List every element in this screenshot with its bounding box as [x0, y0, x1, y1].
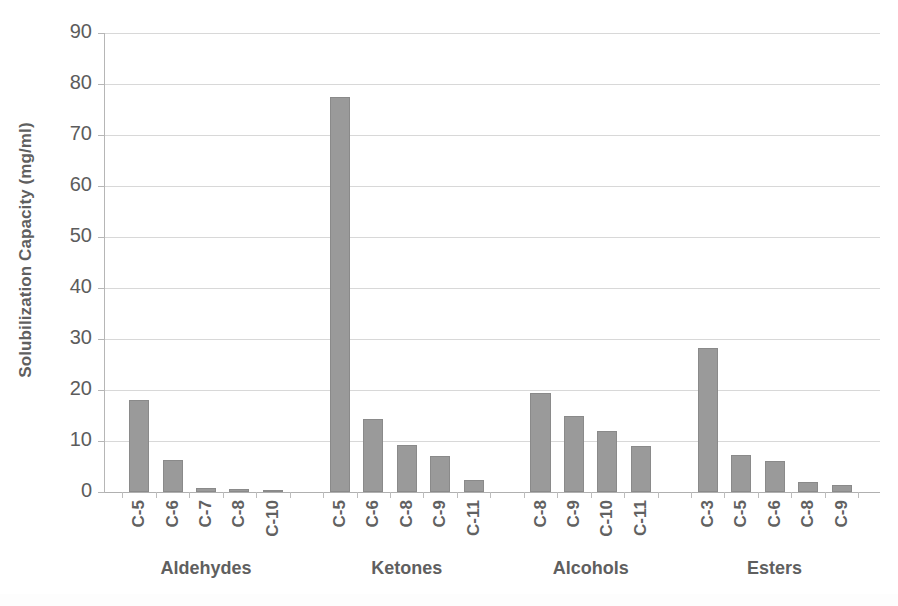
x-tick [624, 492, 625, 498]
bar [397, 445, 417, 492]
gridline-90 [104, 33, 880, 34]
bar [798, 482, 818, 492]
scan-edge [0, 594, 898, 606]
x-tick [457, 492, 458, 498]
x-tick [658, 492, 659, 498]
x-tick [691, 492, 692, 498]
gridline-30 [104, 339, 880, 340]
y-tick-label-50: 50 [56, 224, 92, 247]
bar [430, 456, 450, 492]
group-label-aldehydes: Aldehydes [126, 558, 286, 579]
x-tick [357, 492, 358, 498]
y-tick-50 [98, 237, 105, 238]
y-tick-0 [98, 492, 105, 493]
x-tick [524, 492, 525, 498]
y-tick-80 [98, 84, 105, 85]
x-tick [557, 492, 558, 498]
y-tick-30 [98, 339, 105, 340]
x-tick [858, 492, 859, 498]
bar [163, 460, 183, 492]
y-tick-label-40: 40 [56, 275, 92, 298]
y-tick-90 [98, 33, 105, 34]
y-tick-label-70: 70 [56, 122, 92, 145]
y-tick-20 [98, 390, 105, 391]
bar [464, 480, 484, 492]
x-tick [724, 492, 725, 498]
y-tick-label-20: 20 [56, 377, 92, 400]
x-category-label: C-10 [247, 500, 299, 552]
gridline-60 [104, 186, 880, 187]
x-axis-category-labels: C-5C-6C-7C-8C-10C-5C-6C-8C-9C-11C-8C-9C-… [104, 500, 880, 552]
y-tick-60 [98, 186, 105, 187]
gridline-50 [104, 237, 880, 238]
y-axis-tick-labels: 9080706050403020100 [50, 33, 92, 492]
bar [765, 461, 785, 492]
x-tick [223, 492, 224, 498]
y-tick-label-90: 90 [56, 20, 92, 43]
y-tick-label-80: 80 [56, 71, 92, 94]
gridline-10 [104, 441, 880, 442]
x-tick [758, 492, 759, 498]
x-category-label-text: C-10 [263, 500, 283, 537]
y-tick-label-60: 60 [56, 173, 92, 196]
y-tick-40 [98, 288, 105, 289]
gridline-70 [104, 135, 880, 136]
y-tick-label-0: 0 [56, 479, 92, 502]
x-tick [591, 492, 592, 498]
y-axis-title: Solubilization Capacity (mg/ml) [6, 0, 46, 500]
bar [530, 393, 550, 492]
x-category-label: C-11 [615, 500, 667, 552]
bar [698, 348, 718, 492]
x-tick [490, 492, 491, 498]
x-tick [122, 492, 123, 498]
bar [564, 416, 584, 493]
group-label-esters: Esters [695, 558, 855, 579]
gridline-40 [104, 288, 880, 289]
x-category-label: C-11 [448, 500, 500, 552]
y-tick-label-30: 30 [56, 326, 92, 349]
bar [631, 446, 651, 492]
x-tick [156, 492, 157, 498]
x-tick [791, 492, 792, 498]
gridline-80 [104, 84, 880, 85]
x-category-label-text: C-11 [631, 500, 651, 536]
x-tick [825, 492, 826, 498]
x-category-label-text: C-11 [464, 500, 484, 536]
x-axis-group-labels: AldehydesKetonesAlcoholsEsters [104, 558, 880, 586]
bar-chart: Solubilization Capacity (mg/ml) 90807060… [0, 0, 898, 606]
x-axis-ticks [104, 492, 880, 498]
x-category-label-text: C-9 [832, 500, 852, 527]
bar [129, 400, 149, 492]
y-axis-title-text: Solubilization Capacity (mg/ml) [16, 122, 36, 377]
group-label-ketones: Ketones [327, 558, 487, 579]
bar [832, 485, 852, 492]
bar [597, 431, 617, 492]
x-tick [189, 492, 190, 498]
y-tick-70 [98, 135, 105, 136]
x-tick [423, 492, 424, 498]
plot-area [104, 33, 880, 492]
x-tick [323, 492, 324, 498]
gridline-20 [104, 390, 880, 391]
bar [330, 97, 350, 492]
group-label-alcohols: Alcohols [511, 558, 671, 579]
x-tick [256, 492, 257, 498]
x-category-label: C-9 [816, 500, 868, 552]
x-tick [290, 492, 291, 498]
y-tick-label-10: 10 [56, 428, 92, 451]
x-tick [390, 492, 391, 498]
bar [731, 455, 751, 492]
y-tick-10 [98, 441, 105, 442]
bar [363, 419, 383, 492]
